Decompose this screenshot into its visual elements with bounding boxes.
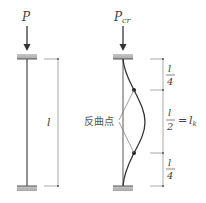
load-arrow-icon — [24, 26, 31, 51]
segment-label-top: l 4 — [166, 63, 175, 87]
svg-text:=: = — [178, 114, 187, 127]
svg-text:l: l — [168, 107, 171, 118]
buckled-shape — [123, 59, 145, 186]
segment-label-middle: l 2 = lk — [166, 107, 197, 132]
left-column: P l — [17, 10, 59, 191]
svg-text:l: l — [168, 157, 171, 168]
lk-label: lk — [189, 114, 197, 128]
load-label-p: P — [21, 10, 31, 24]
length-label: l — [47, 116, 51, 129]
inflection-label: 反曲点 — [84, 116, 114, 127]
svg-text:2: 2 — [166, 121, 173, 132]
bottom-support — [17, 186, 37, 191]
right-column: Pcr 反曲点 l — [84, 10, 197, 191]
top-support — [17, 54, 37, 59]
bottom-support — [113, 186, 133, 191]
load-arrow-icon — [120, 26, 127, 51]
load-label-pcr: Pcr — [113, 10, 132, 25]
buckling-diagram: P l Pcr — [0, 0, 206, 203]
segment-dimension — [150, 58, 164, 187]
leader-line — [119, 90, 134, 120]
svg-text:l: l — [168, 63, 171, 74]
svg-text:4: 4 — [166, 76, 173, 87]
svg-text:4: 4 — [166, 170, 173, 181]
segment-label-bottom: l 4 — [166, 157, 175, 181]
top-support — [113, 54, 133, 59]
leader-line — [119, 122, 134, 153]
